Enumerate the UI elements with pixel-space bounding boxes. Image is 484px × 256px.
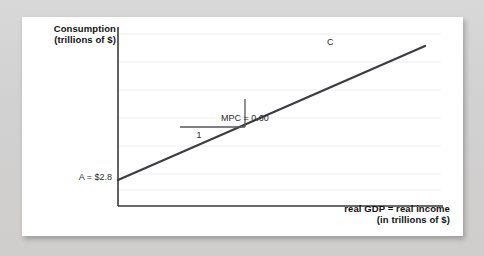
mpc-label: MPC = 0.60 <box>221 113 269 124</box>
gridlines <box>118 34 441 190</box>
figure-card: Consumption(trillions of $) real GDP = r… <box>22 17 463 236</box>
screenshot-root: Consumption(trillions of $) real GDP = r… <box>0 0 484 256</box>
y-axis-title: Consumption(trillions of $) <box>40 23 116 45</box>
curve-label: C <box>327 37 334 48</box>
consumption-line <box>118 46 425 180</box>
slope-run-label: 1 <box>179 130 219 141</box>
y-axis-title-line1: Consumption <box>54 23 116 34</box>
x-axis-title: real GDP = real income(in trillions of $… <box>218 203 450 225</box>
x-axis-title-line1: real GDP = real income <box>344 203 450 214</box>
x-axis-title-line2: (in trillions of $) <box>377 214 450 225</box>
y-axis-title-line2: (trillions of $) <box>54 34 116 45</box>
intercept-label: A = $2.8 <box>60 172 112 183</box>
